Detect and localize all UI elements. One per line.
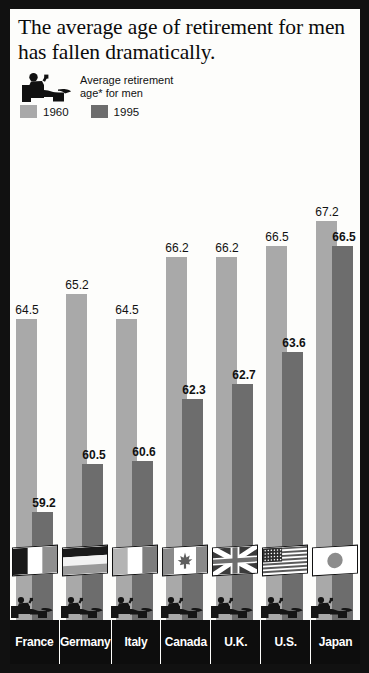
country-label-text: Japan	[319, 635, 353, 649]
country-label-uk[interactable]: U.K.	[211, 620, 261, 664]
plot-area: 64.559.265.260.564.560.666.262.366.262.7…	[10, 148, 360, 664]
reclining-person-in-armchair-icon	[20, 72, 72, 102]
chart-canvas: The average age of retirement for men ha…	[10, 9, 360, 664]
country-label-us[interactable]: U.S.	[261, 620, 311, 664]
bar-column-france: 64.559.2	[10, 148, 60, 664]
value-label-1960-us: 66.5	[255, 230, 299, 244]
country-label-france[interactable]: France	[10, 620, 60, 664]
chart-header: The average age of retirement for men ha…	[10, 9, 360, 148]
bar-1995-japan	[332, 246, 353, 664]
value-label-1960-uk: 66.2	[205, 241, 249, 255]
value-label-1960-japan: 67.2	[305, 205, 349, 219]
legend-caption-line2: age* for men	[80, 87, 173, 100]
country-label-text: France	[15, 635, 53, 649]
legend-swatch-1995	[91, 105, 108, 118]
bar-column-us: 66.563.6	[260, 148, 310, 664]
legend-caption-line1: Average retirement	[80, 74, 173, 87]
bar-column-uk: 66.262.7	[210, 148, 260, 664]
country-label-text: Italy	[124, 635, 147, 649]
country-label-japan[interactable]: Japan	[311, 620, 360, 664]
country-label-text: U.K.	[224, 635, 247, 649]
country-label-italy[interactable]: Italy	[112, 620, 162, 664]
country-label-text: Germany	[60, 635, 111, 649]
value-label-1960-italy: 64.5	[105, 303, 149, 317]
value-label-1960-france: 64.5	[10, 303, 49, 317]
legend-keys: 1960 1995	[20, 105, 161, 118]
country-label-bar: FranceGermanyItalyCanadaU.K.U.S.Japan	[10, 620, 360, 664]
legend: Average retirement age* for men 1960 199…	[18, 72, 352, 118]
legend-label-1960: 1960	[43, 106, 69, 118]
chart-frame: The average age of retirement for men ha…	[0, 0, 369, 673]
country-label-text: Canada	[165, 635, 207, 649]
bar-1995-us	[282, 352, 303, 664]
value-label-1960-germany: 65.2	[55, 278, 99, 292]
bar-column-germany: 65.260.5	[60, 148, 110, 664]
bar-column-canada: 66.262.3	[160, 148, 210, 664]
bar-column-japan: 67.266.5	[310, 148, 360, 664]
legend-swatch-1960	[20, 105, 37, 118]
value-label-1960-canada: 66.2	[155, 241, 199, 255]
legend-label-1995: 1995	[114, 106, 140, 118]
value-label-1995-japan: 66.5	[322, 230, 360, 244]
chart-title: The average age of retirement for men ha…	[18, 15, 352, 65]
bar-columns: 64.559.265.260.564.560.666.262.366.262.7…	[10, 148, 360, 664]
bar-column-italy: 64.560.6	[110, 148, 160, 664]
legend-key-1995: 1995	[91, 105, 140, 118]
legend-key-1960: 1960	[20, 105, 69, 118]
country-label-text: U.S.	[274, 635, 297, 649]
legend-caption: Average retirement age* for men	[80, 74, 173, 99]
country-label-canada[interactable]: Canada	[161, 620, 211, 664]
country-label-germany[interactable]: Germany	[60, 620, 112, 664]
